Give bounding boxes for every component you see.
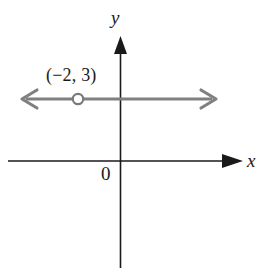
open-circle-point-marker — [73, 94, 83, 104]
coordinate-plane-svg — [0, 0, 265, 275]
origin-label: 0 — [101, 164, 111, 183]
y-axis-label: y — [111, 8, 119, 27]
x-axis-arrowhead-icon — [222, 154, 243, 168]
y-axis-arrowhead-icon — [114, 36, 127, 54]
x-axis-label: x — [247, 151, 255, 170]
graph-figure: y x 0 (−2, 3) — [0, 0, 265, 275]
point-coordinate-label: (−2, 3) — [46, 66, 97, 84]
